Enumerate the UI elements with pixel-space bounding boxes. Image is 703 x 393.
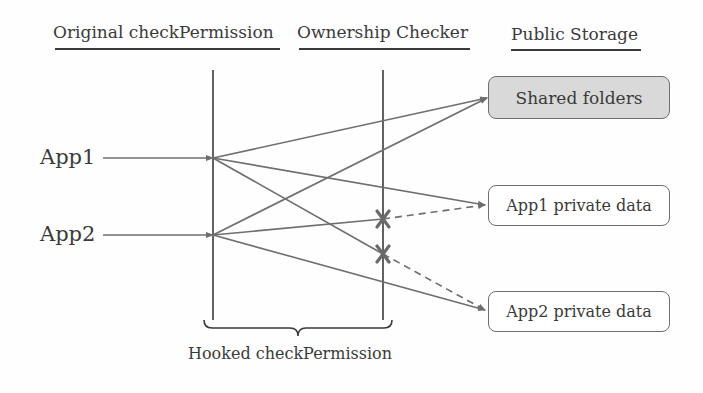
app2-to-app2-private-arrow <box>213 235 485 310</box>
shared-folders-box: Shared folders <box>488 76 670 119</box>
app1-to-shared-arrow <box>213 98 487 158</box>
diagram-canvas: Original checkPermission Ownership Check… <box>0 0 703 393</box>
app2-to-app1-private-dashed-arrow <box>383 205 485 219</box>
app2-to-shared-arrow <box>213 98 487 235</box>
hooked-checkpermission-brace <box>204 320 392 336</box>
app1-to-app2-private-dashed-arrow <box>383 254 485 310</box>
hooked-checkpermission-label: Hooked checkPermission <box>188 344 392 363</box>
app2-private-data-box: App2 private data <box>488 291 670 332</box>
app1-private-data-box: App1 private data <box>488 185 670 226</box>
